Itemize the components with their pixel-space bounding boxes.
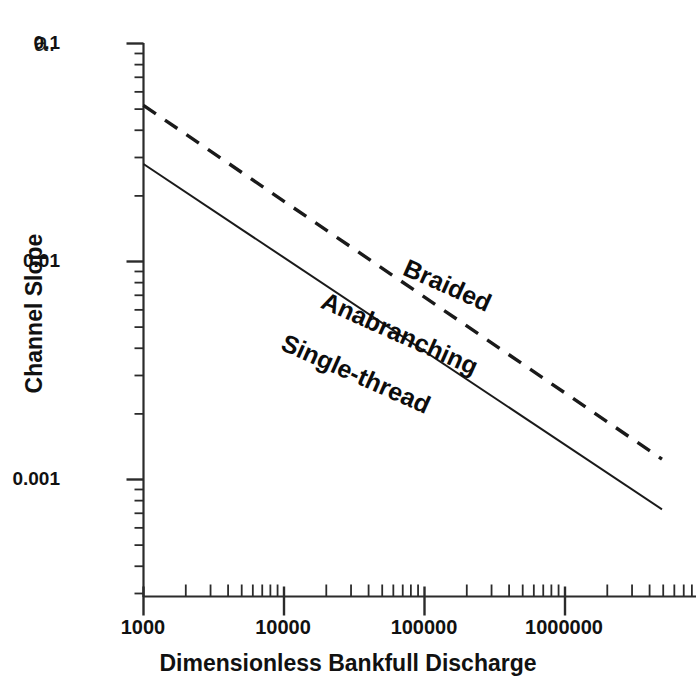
x-axis-tick-label: 100000: [354, 616, 494, 639]
x-axis-ticks: [144, 585, 692, 616]
threshold-lines: [144, 105, 662, 509]
x-axis-title: Dimensionless Bankfull Discharge: [0, 650, 696, 677]
x-axis-tick-label: 10000: [213, 616, 353, 639]
y-axis-title: Channel Slope: [21, 184, 48, 444]
plot-area: [0, 0, 696, 695]
y-axis-tick-label: 0.1: [0, 32, 60, 54]
y-axis-tick-label: 0.01: [0, 250, 60, 272]
axis-lines: [144, 43, 696, 597]
figure-panel-a: a. Channel Slope Dimensionless Bankfull …: [0, 0, 696, 695]
y-axis-tick-label: 0.001: [0, 468, 60, 490]
x-axis-tick-label: 1000: [73, 616, 213, 639]
x-axis-tick-label: 1000000: [494, 616, 634, 639]
y-axis-ticks: [127, 44, 144, 594]
